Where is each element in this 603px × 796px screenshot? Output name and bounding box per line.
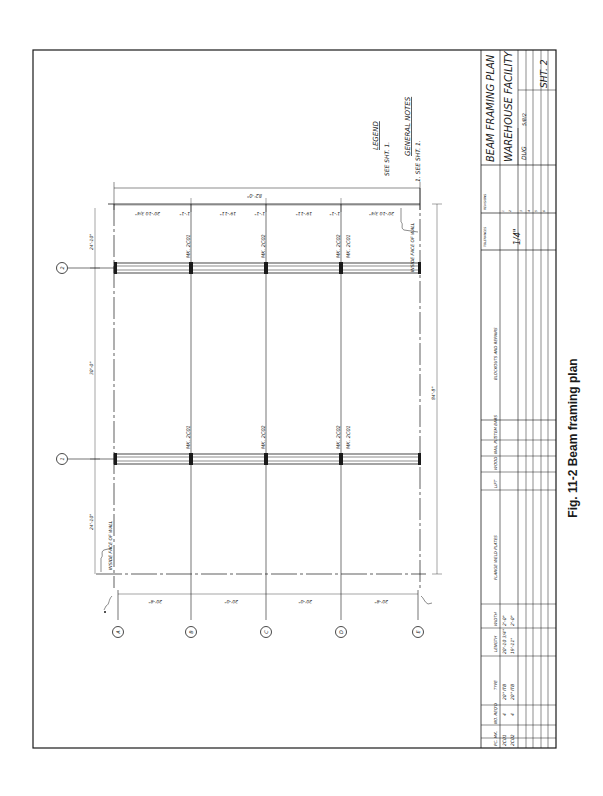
dim-left: 24'-10" — [89, 234, 94, 250]
schedule-row: 2C02 4 20" ITB 19'-11" 2'-0" — [510, 615, 515, 746]
svg-text:2C02: 2C02 — [510, 734, 515, 746]
schedule-header-width: WIDTH — [493, 612, 498, 626]
title-block: BEAM FRAMING PLAN WAREHOUSE FACILITY SHT… — [481, 50, 556, 748]
dim-top: 20'-10 3/4" — [369, 211, 394, 216]
schedule-row: 2C01 4 20" ITB 20'-10 3/4" 2'-0" — [502, 615, 507, 746]
revision-number-column: 1 2 3 4 5 6 — [501, 210, 546, 212]
sheet-number: SHT. 2 — [539, 59, 549, 88]
schedule-header-lift: LIFT — [493, 479, 498, 488]
beam-line-row-2 — [114, 262, 421, 274]
dim-top: 1'-1" — [179, 211, 190, 216]
svg-text:2'-0": 2'-0" — [510, 615, 515, 626]
drawing-date: 5/8/2 — [521, 113, 527, 126]
svg-text:19'-11": 19'-11" — [510, 638, 515, 654]
svg-text:B: B — [188, 630, 194, 634]
schedule-header-blockouts: BLOCKOUTS AND REPAIRS — [493, 327, 498, 380]
revisions-label: TOLERANCES — [483, 227, 487, 247]
svg-text:5: 5 — [534, 210, 538, 212]
dim-bottom: 20'-0" — [298, 599, 312, 604]
svg-text:1: 1 — [59, 457, 65, 460]
svg-text:4: 4 — [527, 210, 531, 212]
beam-line-row-1 — [114, 453, 421, 465]
dim-top-overall: 82'-0" — [247, 193, 262, 199]
svg-text:2: 2 — [508, 210, 512, 212]
dim-bottom: 20'-0" — [224, 599, 238, 604]
grid-bubbles: A B C D E 1 2 — [57, 263, 424, 638]
dim-left: 24'-10" — [89, 514, 94, 530]
schedule-header-pc-mk: PC. MK. — [493, 731, 498, 746]
svg-text:6: 6 — [542, 210, 546, 212]
dim-top: 1'-1" — [329, 211, 340, 216]
schedule-header-flange-weld: FLANGE WELD PLATES — [493, 535, 498, 580]
svg-text:2: 2 — [59, 266, 65, 269]
svg-text:4: 4 — [510, 713, 515, 716]
grid-bubble-A: A — [113, 627, 124, 638]
schedule-header-no-reqd: NO. REQ'D — [493, 703, 498, 724]
scale-value: 1/4" — [513, 228, 522, 245]
drawing-subtitle: WAREHOUSE FACILITY — [503, 50, 514, 162]
revisions-heading: REVISIONS — [483, 194, 487, 210]
svg-text:E: E — [415, 630, 421, 634]
beam-mark: MK. 2C01 — [185, 425, 191, 449]
drawing-title: BEAM FRAMING PLAN — [485, 54, 496, 162]
beam-mark: MK. 2C01 — [345, 425, 351, 449]
dim-right-overall: 84'-8" — [431, 386, 436, 400]
grid-bubble-C: C — [261, 627, 272, 638]
svg-text:20'-10 3/4": 20'-10 3/4" — [502, 629, 507, 654]
beam-mark: MK. 2C02 — [260, 425, 266, 449]
grid-bubble-2: 2 — [57, 263, 68, 274]
general-notes-heading: GENERAL NOTES — [404, 96, 412, 156]
svg-text:20" ITB: 20" ITB — [510, 684, 515, 700]
general-notes: GENERAL NOTES 1. SEE SHT. 1. — [404, 96, 421, 182]
legend: LEGEND SEE SHT. 1. — [372, 121, 390, 176]
svg-text:D: D — [338, 630, 344, 634]
sheet-border — [33, 50, 556, 748]
grid-bubble-B: B — [186, 627, 197, 638]
svg-text:3: 3 — [519, 210, 523, 212]
schedule-header-wood: WOOD — [493, 457, 498, 470]
wall-note-bottom: INSIDE FACE OF WALL — [108, 520, 113, 570]
drawn-by: DUG — [520, 146, 527, 160]
svg-text:2'-0": 2'-0" — [502, 615, 507, 626]
svg-text:A: A — [115, 630, 121, 635]
dim-left: 30'-0" — [89, 361, 94, 375]
dim-top: 19'-11" — [296, 211, 312, 216]
wall-note-top: INSIDE FACE OF WALL — [410, 222, 415, 272]
svg-text:4: 4 — [502, 713, 507, 716]
beam-mark: MK. 2C02 — [335, 425, 341, 449]
svg-text:C: C — [263, 630, 269, 634]
beam-mark: MK. 2C02 — [260, 234, 266, 258]
framing-plan: MK. 2C01 MK. 2C02 MK. 2C02 MK. 2C01 MK. … — [68, 188, 426, 620]
svg-text:1: 1 — [501, 210, 505, 212]
schedule-header-type: TYPE — [493, 680, 498, 690]
schedule-header-nail-plt: NAIL PLT — [493, 436, 498, 454]
figure-caption: Fig. 11-2 Beam framing plan — [566, 358, 580, 517]
dim-top: 19'-11" — [220, 211, 236, 216]
beam-mark: MK. 2C02 — [335, 234, 341, 258]
beam-framing-plan-sheet: BEAM FRAMING PLAN WAREHOUSE FACILITY SHT… — [0, 0, 603, 796]
grid-bubble-D: D — [336, 627, 347, 638]
svg-text:20" ITB: 20" ITB — [502, 684, 507, 700]
legend-heading: LEGEND — [372, 121, 380, 150]
svg-text:2C01: 2C01 — [502, 734, 507, 746]
dim-bottom: 20'-8" — [374, 599, 388, 604]
schedule-header-length: LENGTH — [493, 636, 498, 652]
schedule-header-stem-bars: STEM BARS — [493, 415, 498, 438]
beam-mark: MK. 2C01 — [185, 234, 191, 258]
grid-bubble-1: 1 — [57, 454, 68, 465]
general-notes-text: 1. SEE SHT. 1. — [414, 140, 421, 182]
dim-top: 20'-10 3/4" — [135, 211, 160, 216]
beam-mark: MK. 2C01 — [345, 234, 351, 258]
grid-bubble-E: E — [413, 627, 424, 638]
dim-bottom: 20'-8" — [148, 599, 162, 604]
legend-text: SEE SHT. 1. — [383, 142, 390, 176]
dim-top: 1'-1" — [254, 211, 265, 216]
